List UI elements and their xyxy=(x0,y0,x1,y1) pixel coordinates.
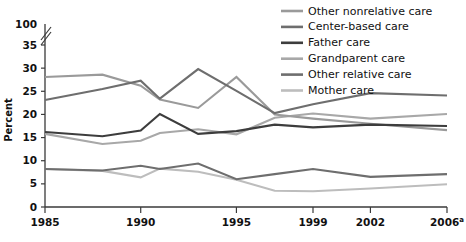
axis-break-icon xyxy=(41,27,51,45)
x-axis-tick-label: 2006a xyxy=(430,216,464,228)
y-axis-tick-label: 10 xyxy=(22,154,37,166)
x-axis-tick-label: 2002 xyxy=(356,216,385,228)
legend-label-other-nonrelative-care: Other nonrelative care xyxy=(308,5,432,18)
chart-container: Percent 05101520253035100 19851990199519… xyxy=(0,0,466,242)
y-axis-tick-label: 5 xyxy=(30,177,37,189)
x-axis-tick-superscript: a xyxy=(459,216,464,224)
x-axis-group: 198519901995199920022006a xyxy=(30,207,464,228)
x-axis-tick-labels: 198519901995199920022006a xyxy=(30,216,464,228)
x-axis-tick-label: 1990 xyxy=(126,216,155,228)
legend-label-mother-care: Mother care xyxy=(308,84,374,97)
series-line-other-nonrelative-care xyxy=(45,75,447,131)
y-axis-group: Percent 05101520253035100 xyxy=(3,18,51,213)
y-axis-tick-label: 100 xyxy=(15,18,37,30)
x-axis-tick-label: 1985 xyxy=(30,216,59,228)
line-chart: Percent 05101520253035100 19851990199519… xyxy=(0,0,466,242)
chart-legend: Other nonrelative careCenter-based careF… xyxy=(281,5,432,98)
y-axis-title: Percent xyxy=(3,98,14,142)
y-axis-tick-label: 35 xyxy=(22,39,37,51)
y-axis-tick-label: 25 xyxy=(22,85,37,97)
legend-label-grandparent-care: Grandparent care xyxy=(308,52,405,65)
y-axis-tick-label: 20 xyxy=(22,108,37,120)
series-lines-group xyxy=(45,69,447,191)
x-axis-tick-label: 1999 xyxy=(298,216,327,228)
y-axis-tick-label: 30 xyxy=(22,62,37,74)
legend-label-center-based-care: Center-based care xyxy=(308,20,409,33)
x-axis-tick-marks xyxy=(45,207,447,213)
y-axis-tick-label: 0 xyxy=(30,201,37,213)
legend-label-other-relative-care: Other relative care xyxy=(308,68,412,81)
x-axis-tick-label: 1995 xyxy=(222,216,251,228)
y-axis-tick-label: 15 xyxy=(22,131,37,143)
y-axis-tick-labels: 05101520253035100 xyxy=(15,18,37,213)
series-line-mother-care xyxy=(45,169,447,192)
legend-label-father-care: Father care xyxy=(308,36,370,49)
